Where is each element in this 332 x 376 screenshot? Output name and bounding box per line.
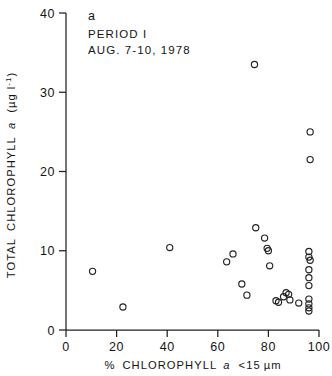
scatter-plot-figure: 010203040 020406080100 a PERIOD I AUG. 7…	[0, 0, 332, 376]
y-tick-label: 0	[47, 324, 55, 338]
data-point-marker	[262, 235, 268, 241]
data-point-marker	[307, 157, 313, 163]
data-point-marker	[306, 267, 312, 273]
x-tick-label: 20	[109, 340, 124, 354]
x-tick-label: 0	[62, 340, 70, 354]
x-axis-ticks	[66, 330, 319, 337]
y-axis-ticks	[59, 13, 66, 330]
x-tick-label: 60	[210, 340, 225, 354]
x-axis-title: %CHLOROPHYLLa<15µm	[104, 359, 281, 371]
data-point-marker	[253, 225, 259, 231]
y-axis-tick-labels: 010203040	[40, 7, 55, 338]
data-point-marker	[230, 251, 236, 257]
data-point-marker	[239, 281, 245, 287]
data-points-group	[89, 61, 313, 314]
x-tick-label: 40	[160, 340, 175, 354]
data-point-marker	[306, 275, 312, 281]
panel-letter-label: a	[88, 9, 95, 23]
data-point-marker	[267, 263, 273, 269]
y-tick-label: 30	[40, 86, 55, 100]
data-point-marker	[251, 61, 257, 67]
data-point-marker	[244, 292, 250, 298]
y-tick-label: 20	[40, 165, 55, 179]
y-tick-label: 10	[40, 244, 55, 258]
data-point-marker	[167, 244, 173, 250]
annotation-date: AUG. 7-10, 1978	[88, 44, 191, 56]
x-axis-tick-labels: 020406080100	[62, 340, 330, 354]
data-point-marker	[120, 304, 126, 310]
annotation-period: PERIOD I	[88, 28, 147, 40]
plot-canvas: 010203040 020406080100 a PERIOD I AUG. 7…	[0, 0, 332, 376]
data-point-marker	[306, 283, 312, 289]
data-point-marker	[89, 268, 95, 274]
y-tick-label: 40	[40, 7, 55, 21]
axes-group	[66, 13, 319, 330]
data-point-marker	[296, 300, 302, 306]
x-tick-label: 80	[261, 340, 276, 354]
data-point-marker	[224, 259, 230, 265]
y-axis-title: TOTALCHLOROPHYLLa(µgl-1)	[4, 72, 17, 279]
x-tick-label: 100	[308, 340, 331, 354]
data-point-marker	[307, 129, 313, 135]
